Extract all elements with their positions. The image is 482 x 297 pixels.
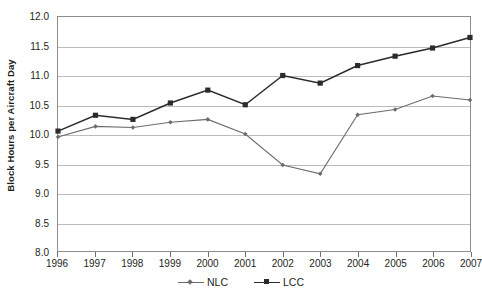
square-marker-icon bbox=[280, 73, 285, 78]
plot-area bbox=[57, 16, 471, 252]
x-axis-tick-labels: 1996199719981999200020012002200320042005… bbox=[57, 258, 471, 274]
legend-entry-lcc: LCC bbox=[254, 276, 304, 288]
square-marker-icon bbox=[130, 117, 135, 122]
y-tick-label: 9.5 bbox=[35, 158, 49, 169]
x-tick-label: 2003 bbox=[309, 258, 331, 269]
y-tick-label: 8.5 bbox=[35, 217, 49, 228]
x-tick-mark bbox=[283, 252, 284, 257]
square-marker-icon bbox=[55, 128, 60, 133]
diamond-marker-icon bbox=[468, 98, 473, 103]
square-marker-icon bbox=[264, 279, 269, 284]
series-line-lcc bbox=[58, 37, 470, 131]
square-marker-icon bbox=[243, 102, 248, 107]
x-tick-mark bbox=[358, 252, 359, 257]
square-marker-icon bbox=[93, 113, 98, 118]
square-marker-icon bbox=[393, 54, 398, 59]
x-tick-mark bbox=[471, 252, 472, 257]
legend-label-lcc: LCC bbox=[283, 276, 304, 288]
y-tick-label: 11.5 bbox=[30, 40, 49, 51]
square-marker-icon bbox=[355, 63, 360, 68]
series-layer bbox=[58, 17, 470, 251]
x-tick-mark bbox=[208, 252, 209, 257]
diamond-marker-icon bbox=[131, 125, 136, 130]
y-tick-label: 12.0 bbox=[30, 11, 49, 22]
y-tick-label: 10.5 bbox=[30, 99, 49, 110]
x-tick-mark bbox=[245, 252, 246, 257]
series-line-nlc bbox=[58, 96, 470, 174]
x-tick-label: 2000 bbox=[196, 258, 218, 269]
square-marker-icon bbox=[318, 81, 323, 86]
x-tick-label: 2007 bbox=[460, 258, 482, 269]
x-tick-label: 2006 bbox=[422, 258, 444, 269]
x-tick-label: 1997 bbox=[84, 258, 106, 269]
x-tick-mark bbox=[433, 252, 434, 257]
legend-entry-nlc: NLC bbox=[178, 276, 228, 288]
x-tick-mark bbox=[396, 252, 397, 257]
diamond-marker-icon bbox=[206, 117, 211, 122]
diamond-marker-icon bbox=[188, 279, 194, 285]
x-tick-mark bbox=[170, 252, 171, 257]
x-tick-mark bbox=[132, 252, 133, 257]
x-tick-label: 1998 bbox=[121, 258, 143, 269]
x-tick-label: 1999 bbox=[159, 258, 181, 269]
x-axis-tick-marks bbox=[57, 252, 471, 257]
chart-legend: NLC LCC bbox=[0, 276, 482, 288]
y-axis-title-text: Block Hours per Aircraft Day bbox=[5, 59, 16, 191]
y-tick-label: 11.0 bbox=[30, 70, 49, 81]
line-chart-figure: Block Hours per Aircraft Day 12.011.511.… bbox=[0, 0, 482, 297]
legend-label-nlc: NLC bbox=[207, 276, 228, 288]
y-axis-tick-labels: 12.011.511.010.510.09.59.08.58.0 bbox=[20, 0, 53, 260]
square-marker-icon bbox=[430, 45, 435, 50]
legend-swatch-nlc-icon bbox=[178, 277, 204, 287]
diamond-marker-icon bbox=[93, 124, 98, 129]
y-tick-label: 9.0 bbox=[35, 188, 49, 199]
x-tick-mark bbox=[95, 252, 96, 257]
y-tick-label: 10.0 bbox=[30, 129, 49, 140]
x-tick-label: 1996 bbox=[46, 258, 68, 269]
diamond-marker-icon bbox=[393, 107, 398, 112]
x-tick-mark bbox=[320, 252, 321, 257]
square-marker-icon bbox=[205, 88, 210, 93]
square-marker-icon bbox=[467, 35, 472, 40]
diamond-marker-icon bbox=[430, 94, 435, 99]
x-tick-label: 2004 bbox=[347, 258, 369, 269]
diamond-marker-icon bbox=[56, 135, 61, 140]
diamond-marker-icon bbox=[168, 120, 173, 125]
y-tick-label: 8.0 bbox=[35, 247, 49, 258]
x-tick-mark bbox=[57, 252, 58, 257]
square-marker-icon bbox=[168, 100, 173, 105]
y-axis-title: Block Hours per Aircraft Day bbox=[0, 0, 20, 250]
legend-swatch-lcc-icon bbox=[254, 277, 280, 287]
x-tick-label: 2001 bbox=[234, 258, 256, 269]
x-tick-label: 2005 bbox=[385, 258, 407, 269]
x-tick-label: 2002 bbox=[272, 258, 294, 269]
